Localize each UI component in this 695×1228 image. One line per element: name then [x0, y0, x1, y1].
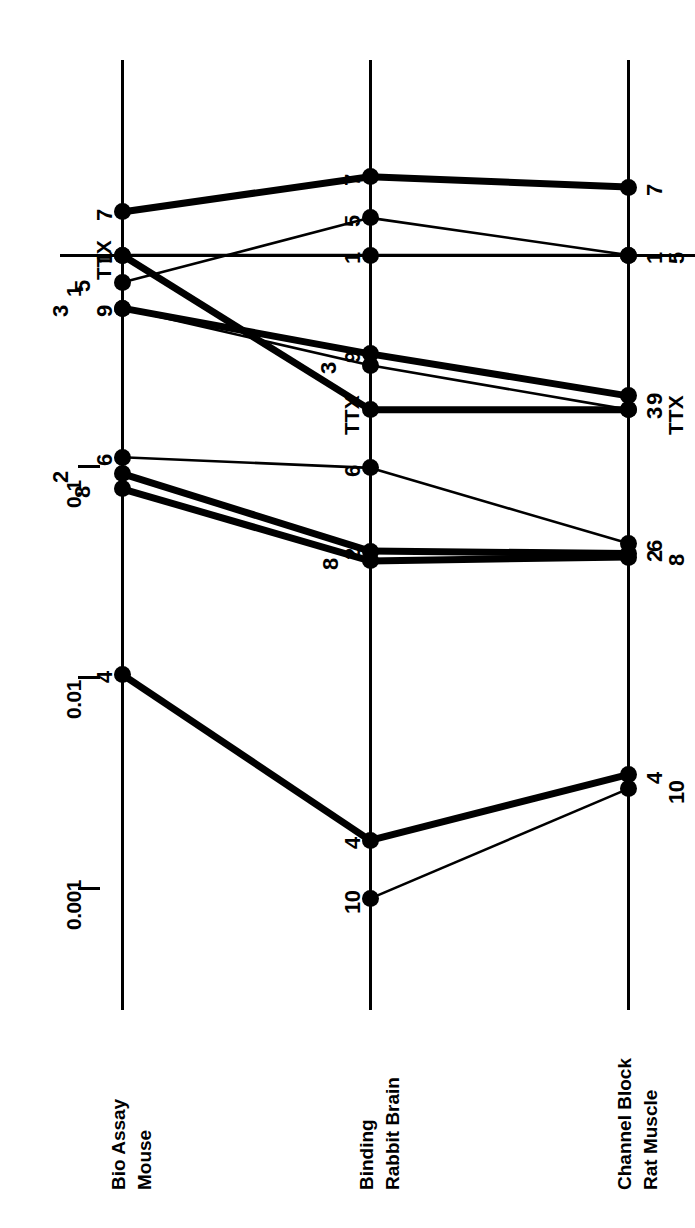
point-label-5: 5 [340, 215, 366, 227]
point-label-9: 9 [92, 305, 118, 317]
point-label-7: 7 [340, 174, 366, 186]
chart-plot-area: 0.0010.010.11777555111333999TTXTTXTTX666… [0, 0, 695, 1228]
point-label-6: 6 [92, 455, 118, 467]
series-line-6 [370, 468, 628, 543]
point-label-TTX: TTX [664, 395, 688, 435]
figure-root: 0.0010.010.11777555111333999TTXTTXTTX666… [0, 0, 695, 1228]
column-title-line1-binding: Binding [356, 1119, 378, 1190]
point-label-4: 4 [340, 838, 366, 850]
data-point-8[interactable] [114, 480, 131, 497]
point-label-3: 3 [316, 363, 342, 375]
point-label-TTX: TTX [340, 395, 364, 435]
point-label-10: 10 [664, 780, 690, 803]
column-title-line2-channel: Rat Muscle [640, 1090, 662, 1190]
series-line-7 [122, 177, 370, 212]
data-point-8[interactable] [362, 552, 379, 569]
point-label-10: 10 [340, 890, 366, 913]
data-point-7[interactable] [620, 179, 637, 196]
point-label-6: 6 [340, 465, 366, 477]
data-point-8[interactable] [620, 549, 637, 566]
data-point-TTX[interactable] [114, 247, 131, 264]
data-point-TTX[interactable] [362, 401, 379, 418]
point-label-TTX: TTX [92, 240, 116, 280]
point-label-2: 2 [48, 471, 74, 483]
point-label-7: 7 [642, 184, 668, 196]
series-line-4 [122, 674, 370, 840]
point-label-9: 9 [340, 351, 366, 363]
point-label-4: 4 [92, 672, 118, 684]
series-line-5 [122, 218, 370, 283]
point-label-8: 8 [70, 486, 96, 498]
series-line-2 [370, 551, 628, 553]
series-line-9 [370, 354, 628, 396]
point-label-1: 1 [340, 252, 366, 264]
series-line-8 [370, 557, 628, 561]
series-line-6 [122, 457, 370, 468]
column-title-line2-bioassay: Mouse [134, 1130, 156, 1190]
point-label-7: 7 [92, 209, 118, 221]
data-point-5[interactable] [114, 274, 131, 291]
column-title-line1-bioassay: Bio Assay [108, 1099, 130, 1190]
data-point-TTX[interactable] [620, 401, 637, 418]
series-line-4 [370, 775, 628, 841]
data-point-10[interactable] [620, 780, 637, 797]
series-line-2 [122, 474, 370, 551]
point-label-3: 3 [48, 305, 74, 317]
point-label-8: 8 [318, 558, 344, 570]
column-title-line2-binding: Rabbit Brain [382, 1077, 404, 1190]
column-title-line1-channel: Channel Block [614, 1058, 636, 1190]
series-line-7 [370, 177, 628, 187]
series-line-TTX [122, 255, 370, 410]
point-label-5: 5 [70, 280, 96, 292]
data-point-1[interactable] [620, 247, 637, 264]
series-line-8 [122, 489, 370, 561]
point-label-8: 8 [664, 554, 690, 566]
point-label-1: 1 [642, 252, 668, 264]
series-line-5 [370, 218, 628, 255]
